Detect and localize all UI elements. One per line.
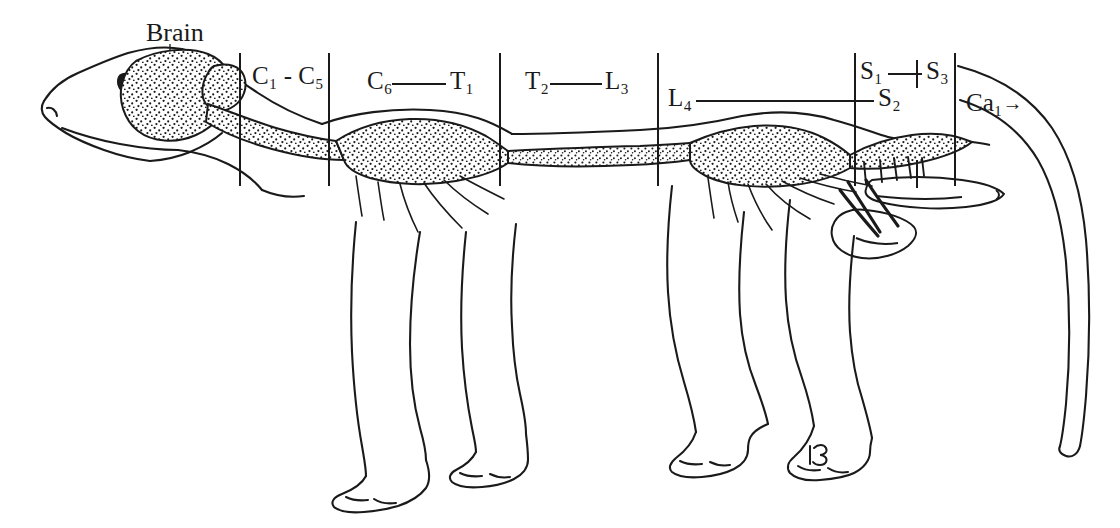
hindleg-near [667, 186, 768, 477]
label-ca1-text: Ca₁ [966, 89, 1003, 116]
cord-cervical-enlargement [336, 119, 508, 184]
pelvic-viscera [866, 177, 1004, 208]
label-c1-c5: C₁ - C₅ [252, 63, 324, 88]
cord-sacral-conus [850, 134, 972, 169]
foreleg-far [450, 224, 528, 487]
label-l3: L₃ [605, 68, 629, 93]
artist-signature [810, 445, 827, 465]
cord-thoracic [508, 143, 690, 166]
foreleg-near [332, 222, 429, 512]
cord-cervical [206, 104, 344, 160]
label-s1: S₁ [860, 58, 883, 83]
tail [958, 66, 1089, 457]
filum-terminale [972, 142, 990, 145]
label-s3: S₃ [926, 58, 949, 83]
hindleg-far [785, 200, 872, 480]
label-brain: Brain [146, 20, 204, 46]
pelvic-nerve-strands [840, 180, 898, 236]
label-l4: L₄ [668, 85, 692, 110]
dog-spinal-cord-illustration [0, 0, 1120, 528]
caudal-arrow-icon: → [1003, 92, 1023, 114]
label-t1: T₁ [450, 68, 474, 93]
cord-lumbar-enlargement [690, 126, 850, 187]
label-c6: C₆ [367, 68, 392, 93]
label-ca1: Ca₁→ [966, 90, 1023, 115]
figure-canvas: Brain C₁ - C₅ C₆ T₁ T₂ L₃ L₄ S₂ S₁ S₃ Ca… [0, 0, 1120, 528]
bladder-structure [832, 210, 916, 259]
label-s2: S₂ [878, 85, 901, 110]
label-t2: T₂ [525, 68, 549, 93]
